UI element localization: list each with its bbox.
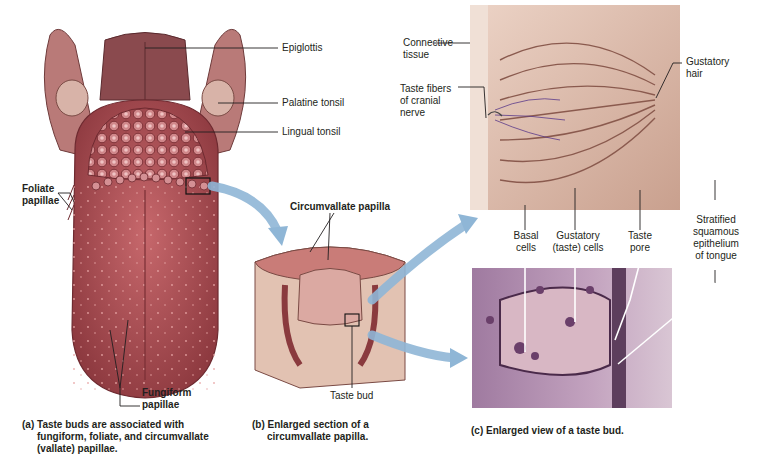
label-foliate-papillae: Foliate papillae	[22, 183, 59, 207]
label-basal-line2: cells	[508, 242, 544, 254]
caption-panel-b: (b) Enlarged section of a circumvallate …	[252, 419, 452, 443]
caption-a-line3: (vallate) papillae.	[22, 443, 252, 455]
caption-c-line1: Enlarged view of a taste bud.	[486, 425, 624, 436]
label-gustatory-cells-line1: Gustatory	[548, 230, 608, 242]
caption-a-line2: fungiform, foliate, and circumvallate	[22, 431, 252, 443]
label-stratified-line1: Stratified	[684, 214, 748, 226]
label-foliate-line1: Foliate	[22, 183, 59, 195]
label-taste-pore: Taste pore	[622, 230, 658, 254]
label-fungiform-papillae: Fungiform papillae	[142, 387, 191, 411]
label-gustatory-hair-line2: hair	[686, 68, 729, 80]
label-taste-pore-line1: Taste	[622, 230, 658, 242]
caption-b-line2: circumvallate papilla.	[252, 431, 452, 443]
label-epiglottis: Epiglottis	[282, 42, 323, 54]
label-stratified-line4: of tongue	[684, 250, 748, 262]
label-gustatory-hair-line1: Gustatory	[686, 56, 729, 68]
label-taste-pore-line2: pore	[622, 242, 658, 254]
caption-b-line1: Enlarged section of a	[268, 419, 369, 430]
label-gustatory-hair: Gustatory hair	[686, 56, 729, 80]
label-stratified-line2: squamous	[684, 226, 748, 238]
circumvallate-block-illustration	[255, 247, 405, 388]
caption-c-prefix: (c)	[471, 425, 483, 436]
caption-panel-c: (c) Enlarged view of a taste bud.	[471, 425, 751, 437]
label-fungiform-line2: papillae	[142, 399, 191, 411]
label-connective-line2: tissue	[403, 49, 453, 61]
label-stratified-epithelium: Stratified squamous epithelium of tongue	[684, 214, 748, 262]
label-taste-fibers: Taste fibers of cranial nerve	[400, 83, 451, 119]
label-taste-bud: Taste bud	[330, 390, 373, 402]
tongue-illustration	[44, 29, 245, 398]
caption-b-prefix: (b)	[252, 419, 265, 430]
label-taste-fibers-line3: nerve	[400, 107, 451, 119]
label-lingual-tonsil: Lingual tonsil	[282, 126, 340, 138]
label-taste-fibers-line1: Taste fibers	[400, 83, 451, 95]
label-connective-tissue: Connective tissue	[403, 37, 453, 61]
label-palatine-tonsil: Palatine tonsil	[282, 97, 344, 109]
label-gustatory-cells: Gustatory (taste) cells	[548, 230, 608, 254]
taste-bud-illustration	[470, 5, 680, 210]
label-stratified-line3: epithelium	[684, 238, 748, 250]
label-circumvallate-papilla: Circumvallate papilla	[290, 201, 390, 213]
caption-a-prefix: (a)	[22, 419, 34, 430]
label-connective-line1: Connective	[403, 37, 453, 49]
label-gustatory-cells-line2: (taste) cells	[548, 242, 608, 254]
label-taste-fibers-line2: of cranial	[400, 95, 451, 107]
label-fungiform-line1: Fungiform	[142, 387, 191, 399]
label-basal-cells: Basal cells	[508, 230, 544, 254]
taste-bud-micrograph	[472, 268, 672, 408]
label-basal-line1: Basal	[508, 230, 544, 242]
caption-a-line1: Taste buds are associated with	[37, 419, 184, 430]
caption-panel-a: (a) Taste buds are associated with fungi…	[22, 419, 252, 455]
label-foliate-line2: papillae	[22, 195, 59, 207]
